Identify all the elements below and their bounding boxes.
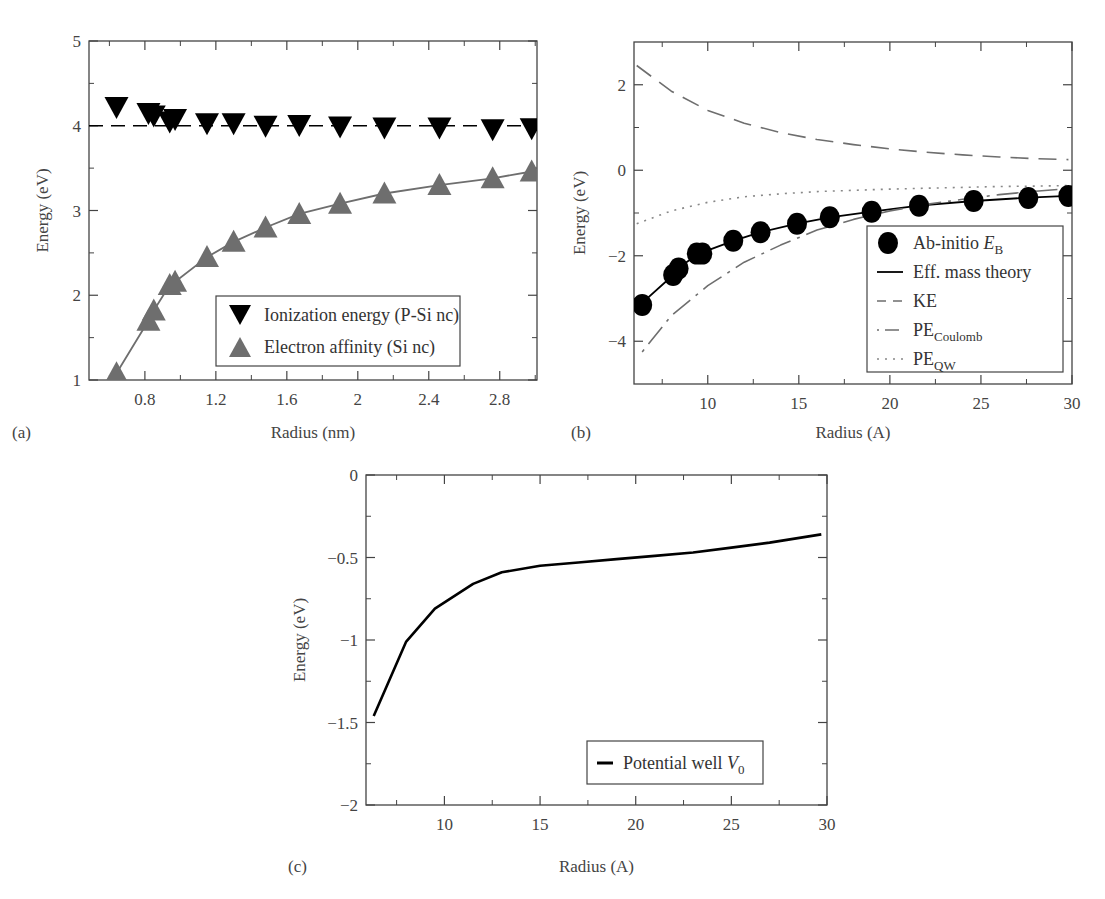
panel-b-binding-energy-components: 1015202530−4−202Radius (A)Energy (eV)(b)…: [570, 42, 1081, 442]
data-point-circle: [723, 230, 743, 252]
y-tick-label: 0: [350, 466, 359, 485]
data-point-circle: [1018, 187, 1038, 209]
x-tick-label: 2.4: [418, 390, 440, 409]
legend: Potential well V0: [587, 741, 763, 784]
data-point-triangle-down: [254, 116, 278, 138]
y-tick-label: −2: [340, 796, 358, 815]
series-line: [374, 534, 822, 716]
x-tick-label: 20: [881, 394, 898, 413]
data-point-circle: [751, 221, 771, 243]
data-point-triangle-down: [520, 118, 544, 140]
data-point-triangle-down: [481, 119, 505, 141]
y-tick-label: 4: [73, 117, 82, 136]
panel-a-ionization-electron-affinity: 0.81.21.622.42.812345Radius (nm)Energy (…: [12, 32, 544, 442]
x-tick-label: 2: [354, 390, 363, 409]
data-point-triangle-down: [372, 117, 396, 139]
y-tick-label: 5: [73, 32, 82, 51]
data-point-circle: [1058, 185, 1078, 207]
panel-label: (b): [571, 423, 591, 442]
data-point-triangle-up: [222, 230, 246, 252]
panel-label: (c): [288, 857, 307, 876]
data-point-triangle-down: [195, 113, 219, 135]
y-tick-label: 3: [73, 202, 82, 221]
x-tick-label: 15: [790, 394, 807, 413]
y-tick-label: −1.5: [327, 714, 358, 733]
legend-label: KE: [913, 291, 937, 311]
x-tick-label: 20: [627, 815, 644, 834]
legend: Ionization energy (P-Si nc)Electron affi…: [216, 296, 460, 366]
data-point-circle: [692, 243, 712, 265]
data-point-triangle-up: [520, 160, 544, 182]
y-tick-label: −4: [608, 332, 627, 351]
x-axis-label: Radius (nm): [271, 423, 356, 442]
data-point-circle: [787, 213, 807, 235]
x-tick-label: 2.8: [489, 390, 510, 409]
x-axis-label: Radius (A): [815, 423, 890, 442]
data-point-triangle-up: [287, 202, 311, 224]
data-point-triangle-up: [142, 299, 166, 321]
x-tick-label: 1.2: [205, 390, 226, 409]
y-tick-label: 0: [618, 161, 627, 180]
data-point-triangle-down: [222, 113, 246, 135]
x-tick-label: 1.6: [276, 390, 297, 409]
x-tick-label: 25: [972, 394, 989, 413]
data-point-triangle-down: [105, 97, 129, 119]
x-tick-label: 0.8: [134, 390, 155, 409]
legend-label: Eff. mass theory: [913, 262, 1031, 282]
figure: 0.81.21.622.42.812345Radius (nm)Energy (…: [0, 0, 1105, 899]
data-point-circle: [964, 190, 984, 212]
data-point-triangle-down: [328, 117, 352, 139]
y-tick-label: −1: [340, 631, 358, 650]
data-point-circle: [669, 258, 689, 280]
y-tick-label: 2: [73, 286, 82, 305]
series-line: [637, 186, 1069, 224]
data-point-triangle-up: [254, 215, 278, 237]
data-point-circle: [820, 206, 840, 228]
plot-area: [374, 534, 822, 716]
data-point-circle: [862, 201, 882, 223]
legend: Ab-initio EBEff. mass theoryKEPECoulombP…: [867, 226, 1063, 373]
data-point-triangle-up: [195, 245, 219, 267]
y-tick-label: −0.5: [327, 549, 358, 568]
x-tick-label: 30: [819, 815, 836, 834]
panel-c-potential-well: 1015202530−2−1.5−1−0.50Radius (A)Energy …: [288, 466, 836, 876]
data-point-triangle-up: [328, 192, 352, 214]
x-axis-label: Radius (A): [559, 857, 634, 876]
data-point-circle: [632, 294, 652, 316]
x-tick-label: 10: [699, 394, 716, 413]
y-tick-label: 2: [618, 76, 627, 95]
data-point-circle: [909, 195, 929, 217]
y-axis-label: Energy (eV): [570, 171, 589, 255]
x-tick-label: 25: [723, 815, 740, 834]
y-axis-label: Energy (eV): [290, 598, 309, 682]
series-line: [637, 66, 1069, 160]
y-tick-label: −2: [608, 247, 626, 266]
y-axis-label: Energy (eV): [33, 168, 52, 252]
data-point-triangle-down: [427, 117, 451, 139]
legend-label: Ionization energy (P-Si nc): [264, 305, 459, 326]
y-tick-label: 1: [73, 371, 82, 390]
panel-label: (a): [12, 423, 31, 442]
legend-circle-icon: [878, 232, 898, 254]
x-tick-label: 30: [1064, 394, 1081, 413]
x-tick-label: 10: [436, 815, 453, 834]
legend-label: Electron affinity (Si nc): [264, 337, 435, 358]
data-point-triangle-up: [105, 361, 129, 383]
x-tick-label: 15: [532, 815, 549, 834]
